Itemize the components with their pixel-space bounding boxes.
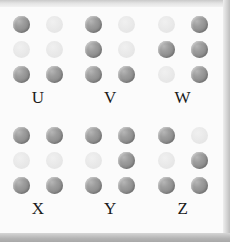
braille-letter-label: X: [32, 200, 45, 217]
braille-dot-4-flat: [118, 16, 135, 33]
braille-dot-4-raised: [118, 127, 135, 144]
right-edge-bar: [223, 0, 230, 242]
braille-dot-matrix: [13, 127, 63, 194]
braille-dot-2-flat: [85, 152, 102, 169]
braille-dot-2-flat: [13, 41, 30, 58]
braille-dot-5-raised: [191, 41, 208, 58]
braille-cell-v: V: [74, 9, 146, 120]
braille-cell-grid: UVWXYZ: [0, 7, 223, 233]
braille-letter-label: Z: [177, 200, 188, 217]
braille-dot-3-raised: [13, 177, 30, 194]
braille-cell-x: X: [2, 120, 74, 231]
braille-dot-4-flat: [191, 127, 208, 144]
braille-dot-1-raised: [85, 127, 102, 144]
braille-dot-6-raised: [46, 66, 63, 83]
braille-dot-3-raised: [85, 177, 102, 194]
braille-dot-2-flat: [158, 152, 175, 169]
braille-dot-6-raised: [118, 66, 135, 83]
braille-dot-4-raised: [46, 127, 63, 144]
braille-dot-5-flat: [46, 152, 63, 169]
braille-dot-matrix: [158, 127, 208, 194]
braille-dot-3-raised: [158, 177, 175, 194]
braille-dot-1-raised: [85, 16, 102, 33]
braille-dot-2-raised: [158, 41, 175, 58]
bottom-edge-bar: [0, 233, 230, 242]
braille-cell-w: W: [147, 9, 219, 120]
braille-dot-2-raised: [85, 41, 102, 58]
braille-dot-5-raised: [118, 152, 135, 169]
braille-dot-matrix: [158, 16, 208, 83]
braille-dot-1-raised: [13, 127, 30, 144]
braille-dot-1-raised: [158, 127, 175, 144]
braille-letter-label: Y: [104, 200, 117, 217]
braille-dot-3-flat: [158, 66, 175, 83]
braille-cell-y: Y: [74, 120, 146, 231]
braille-dot-6-raised: [46, 177, 63, 194]
braille-dot-1-flat: [158, 16, 175, 33]
braille-letter-label: V: [104, 89, 117, 106]
braille-letter-label: W: [175, 89, 192, 106]
braille-dot-3-raised: [13, 66, 30, 83]
braille-dot-5-flat: [46, 41, 63, 58]
top-edge-bar: [0, 0, 230, 7]
braille-dot-6-raised: [191, 66, 208, 83]
braille-dot-1-raised: [13, 16, 30, 33]
braille-dot-5-raised: [191, 152, 208, 169]
braille-dot-4-raised: [191, 16, 208, 33]
braille-dot-4-flat: [46, 16, 63, 33]
braille-dot-6-raised: [191, 177, 208, 194]
braille-dot-matrix: [85, 16, 135, 83]
braille-cell-z: Z: [147, 120, 219, 231]
braille-dot-matrix: [13, 16, 63, 83]
braille-dot-5-flat: [118, 41, 135, 58]
braille-cell-u: U: [2, 9, 74, 120]
braille-dot-2-flat: [13, 152, 30, 169]
braille-dot-6-raised: [118, 177, 135, 194]
braille-alphabet-chart: UVWXYZ: [0, 0, 230, 242]
braille-dot-matrix: [85, 127, 135, 194]
braille-dot-3-raised: [85, 66, 102, 83]
braille-letter-label: U: [32, 89, 45, 106]
